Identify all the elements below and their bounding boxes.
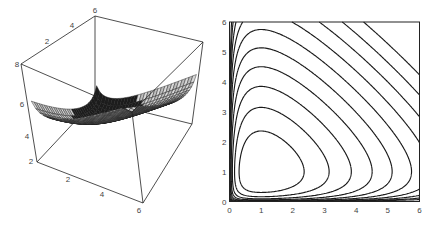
contour-plot: 01234560123456	[222, 18, 422, 215]
contour-lines	[230, 22, 419, 201]
y-tick-label: 3	[222, 108, 227, 117]
tick-label: 6	[93, 6, 98, 15]
y-tick-label: 0	[222, 198, 227, 207]
x-tick-label: 4	[354, 206, 359, 215]
surface-mesh	[31, 75, 196, 125]
x-tick-label: 6	[417, 206, 422, 215]
figure: 2468642246 01234560123456	[0, 0, 431, 225]
y-tick-label: 2	[222, 138, 227, 147]
contour-line	[232, 86, 351, 198]
x-tick-label: 3	[322, 206, 327, 215]
x-tick-label: 0	[227, 206, 232, 215]
contour-line	[230, 22, 419, 201]
x-tick-label: 2	[291, 206, 296, 215]
y-tick-label: 4	[222, 78, 227, 87]
contour-line	[230, 22, 419, 201]
tick-label: 4	[25, 132, 30, 141]
surface-plot-3d: 2468642246	[15, 6, 203, 215]
y-tick-label: 5	[222, 48, 227, 57]
y-tick-label: 6	[222, 18, 227, 27]
y-tick-label: 1	[222, 168, 227, 177]
tick-label: 6	[20, 100, 25, 109]
contour-frame	[230, 22, 420, 202]
contour-line	[230, 22, 419, 201]
contour-line	[230, 22, 419, 201]
tick-label: 4	[100, 190, 105, 199]
tick-label: 4	[70, 21, 75, 30]
tick-label: 2	[29, 157, 34, 166]
contour-line	[235, 107, 330, 196]
x-tick-label: 5	[386, 206, 391, 215]
tick-label: 8	[15, 60, 20, 69]
contour-line	[230, 30, 411, 201]
tick-label: 2	[45, 37, 50, 46]
contour-line	[231, 48, 393, 201]
x-tick-label: 1	[259, 206, 264, 215]
tick-label: 2	[66, 175, 71, 184]
contour-line	[239, 131, 304, 192]
tick-label: 6	[137, 206, 142, 215]
